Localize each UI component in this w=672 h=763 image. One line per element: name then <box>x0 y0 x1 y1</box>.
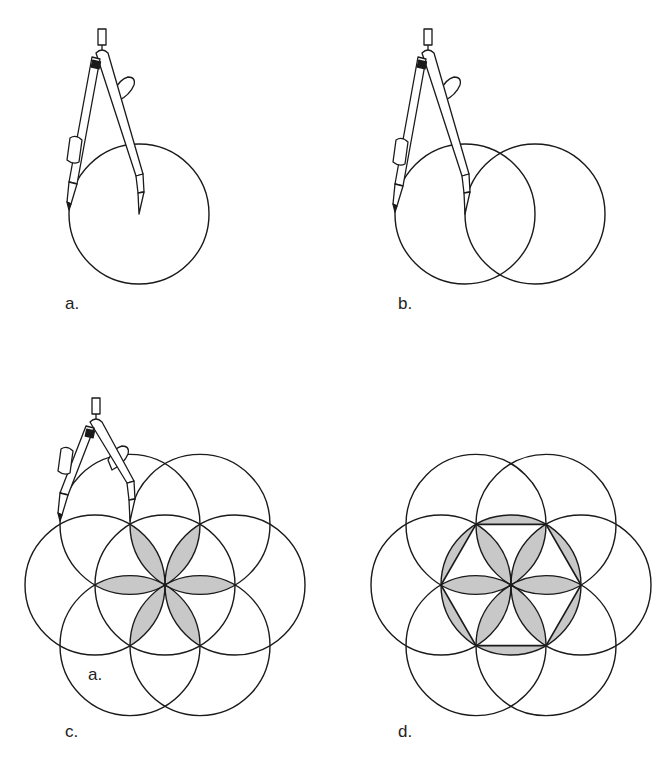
panel-b-label: b. <box>398 294 412 314</box>
panel-b <box>395 144 605 284</box>
panel-a-label: a. <box>65 294 79 314</box>
panel-d <box>371 454 651 715</box>
compass-icon <box>58 398 135 521</box>
compass-icon <box>393 29 470 214</box>
circles <box>395 144 605 284</box>
panel-d-label: d. <box>398 722 412 742</box>
geometric-construction-figure <box>0 0 672 763</box>
panel-c-inner-label: a. <box>88 665 102 685</box>
circles <box>371 454 651 715</box>
panel-c-label: c. <box>65 722 78 742</box>
compass-icon <box>67 29 144 214</box>
